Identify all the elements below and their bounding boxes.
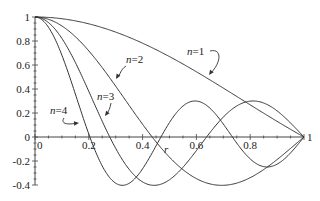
axes: 10.80.60.40.20-0.2-0.400.20.40.60.81r [13, 11, 313, 191]
label-n3: n=3 [97, 90, 115, 102]
x-tick-label: 0.8 [243, 139, 257, 151]
x-tick-label: 1 [307, 131, 313, 143]
chart: 10.80.60.40.20-0.2-0.400.20.40.60.81r n=… [0, 0, 320, 201]
label-n4: n=4 [50, 104, 68, 116]
curve-n4 [35, 17, 304, 185]
y-tick-label: 0 [25, 131, 31, 143]
y-tick-label: 0.6 [16, 59, 30, 71]
x-tick-label: 0 [37, 139, 43, 151]
label-n2: n=2 [126, 53, 143, 65]
y-tick-label: -0.2 [13, 155, 30, 167]
y-tick-label: 0.2 [16, 107, 30, 119]
x-tick-label: 0.2 [82, 139, 96, 151]
y-tick-label: 0.8 [16, 35, 30, 47]
x-tick-label: 0.6 [190, 139, 204, 151]
curve-n2 [35, 17, 304, 185]
label-n1: n=1 [187, 45, 204, 57]
x-axis-label: r [164, 143, 169, 155]
curves [35, 17, 304, 185]
curve-n1 [35, 17, 304, 137]
y-tick-label: -0.4 [13, 179, 31, 191]
x-tick-label: 0.4 [136, 139, 150, 151]
y-tick-label: 1 [25, 11, 31, 23]
y-tick-label: 0.4 [16, 83, 30, 95]
curve-n3 [35, 17, 304, 185]
